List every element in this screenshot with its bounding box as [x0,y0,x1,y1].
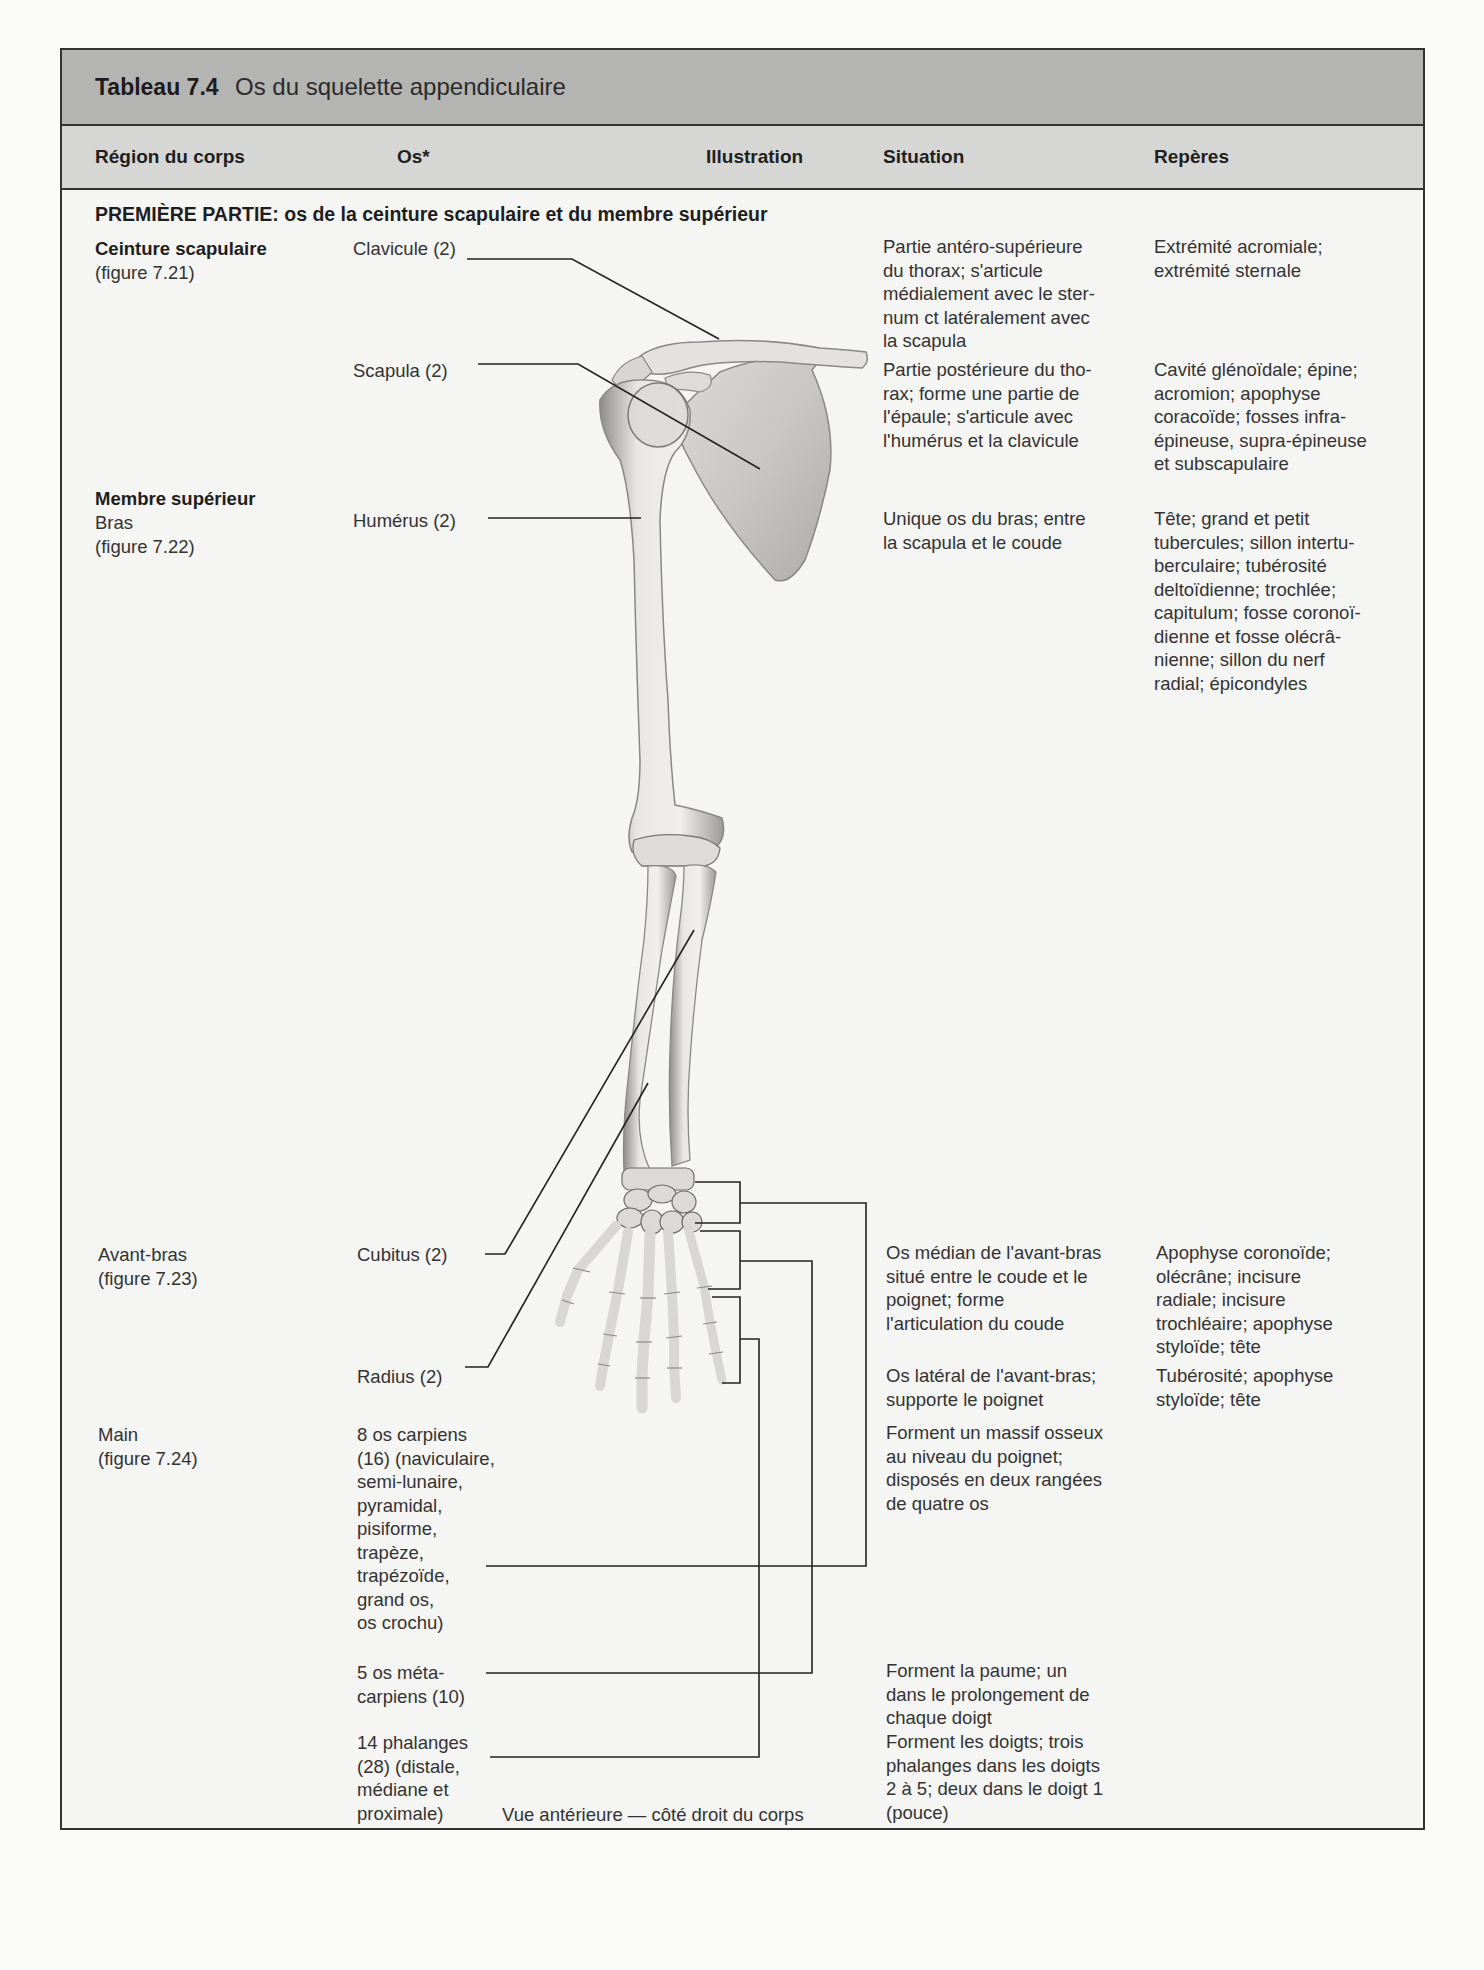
bone-metacarpiens: 5 os méta- carpiens (10) [357,1661,465,1708]
bone-phalanges: 14 phalanges (28) (distale, médiane et p… [357,1731,468,1825]
region-ceinture-title: Ceinture scapulaire [95,237,267,261]
region-main-figure: (figure 7.24) [98,1447,198,1471]
phalanges-connector [490,1339,759,1757]
ulna-leader-line [485,930,694,1254]
situation-carpiens: Forment un massif osseux au niveau du po… [886,1421,1103,1515]
situation-humerus: Unique os du bras; entre la scapula et l… [883,507,1086,554]
carpal-bracket [695,1182,740,1223]
situation-scapula: Partie postérieure du tho- rax; forme un… [883,358,1092,452]
region-ceinture-figure: (figure 7.21) [95,261,195,285]
situation-clavicule: Partie antéro-supérieure du thorax; s'ar… [883,235,1095,353]
reperes-humerus: Tête; grand et petit tubercules; sillon … [1154,507,1361,695]
radius-bone [624,866,677,1172]
clavicle-leader-line [467,259,719,339]
region-bras-figure: (figure 7.22) [95,535,195,559]
region-avant-bras-figure: (figure 7.23) [98,1267,198,1291]
situation-metacarpiens: Forment la paume; un dans le prolongemen… [886,1659,1090,1730]
bone-carpiens: 8 os carpiens (16) (naviculaire, semi-lu… [357,1423,495,1635]
region-main: Main [98,1423,138,1447]
bone-humerus: Humérus (2) [353,509,456,533]
reperes-clavicule: Extrémité acromiale; extrémité sternale [1154,235,1323,282]
situation-cubitus: Os médian de l'avant-bras situé entre le… [886,1241,1101,1335]
region-avant-bras: Avant-bras [98,1243,187,1267]
bone-scapula: Scapula (2) [353,359,448,383]
reperes-scapula: Cavité glénoïdale; épine; acromion; apop… [1154,358,1367,476]
ulna-bone [669,865,716,1166]
reperes-radius: Tubérosité; apophyse styloïde; tête [1156,1364,1333,1411]
bone-cubitus: Cubitus (2) [357,1243,447,1267]
region-bras: Bras [95,511,133,535]
region-membre-title: Membre supérieur [95,487,255,511]
situation-radius: Os latéral de l'avant-bras; supporte le … [886,1364,1096,1411]
illustration-caption: Vue antérieure — côté droit du corps [502,1803,804,1827]
hand-bones [560,1226,722,1408]
reperes-cubitus: Apophyse coronoïde; olécrâne; incisure r… [1156,1241,1333,1359]
bone-clavicule: Clavicule (2) [353,237,456,261]
situation-phalanges: Forment les doigts; trois phalanges dans… [886,1730,1103,1824]
arm-skeleton-illustration [0,0,1484,1970]
section-title: PREMIÈRE PARTIE: os de la ceinture scapu… [95,203,768,227]
bone-radius: Radius (2) [357,1365,442,1389]
